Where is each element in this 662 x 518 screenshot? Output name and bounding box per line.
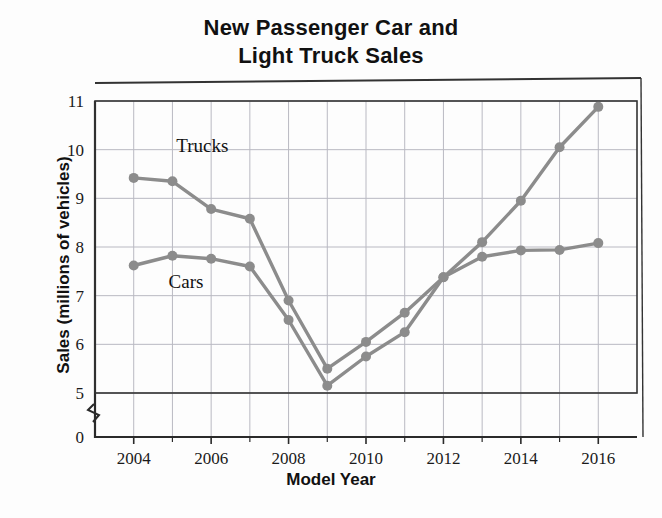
- outer-top-rule: [95, 78, 641, 83]
- data-point: [400, 308, 410, 318]
- data-point: [516, 245, 526, 255]
- data-point: [361, 352, 371, 362]
- y-axis-ticks: 5678910110: [67, 92, 85, 447]
- x-tick-label: 2004: [117, 449, 152, 468]
- data-point: [593, 102, 603, 112]
- data-point: [245, 261, 255, 271]
- y-tick-label: 8: [76, 238, 85, 257]
- y-tick-label: 7: [76, 287, 85, 306]
- series-annotations: TrucksCars: [169, 135, 229, 292]
- series-label-cars: Cars: [169, 271, 204, 292]
- data-point: [129, 260, 139, 270]
- data-point: [593, 238, 603, 248]
- line-chart-plot: 5678910110 2004200620082010201220142016 …: [0, 0, 662, 518]
- y-tick-label: 5: [76, 384, 85, 403]
- data-point: [206, 254, 216, 264]
- x-axis-ticks: 2004200620082010201220142016: [117, 437, 616, 468]
- data-point: [167, 176, 177, 186]
- data-point: [206, 204, 216, 214]
- data-point: [516, 196, 526, 206]
- data-point: [284, 296, 294, 306]
- data-point: [555, 142, 565, 152]
- outer-right-rule: [641, 78, 643, 437]
- y-tick-label: 9: [76, 189, 85, 208]
- x-tick-label: 2006: [194, 449, 228, 468]
- x-tick-label: 2016: [581, 449, 615, 468]
- data-point: [361, 337, 371, 347]
- y-tick-label-zero: 0: [76, 428, 85, 447]
- x-tick-label: 2014: [504, 449, 539, 468]
- y-tick-label: 10: [67, 141, 84, 160]
- chart-screenshot: New Passenger Car and Light Truck Sales …: [0, 0, 662, 518]
- data-point: [477, 252, 487, 262]
- x-tick-label: 2012: [426, 449, 460, 468]
- x-tick-label: 2010: [349, 449, 383, 468]
- data-point: [438, 272, 448, 282]
- data-point: [400, 327, 410, 337]
- y-tick-label: 11: [68, 92, 84, 111]
- x-tick-label: 2008: [272, 449, 306, 468]
- data-point: [245, 214, 255, 224]
- data-point: [284, 315, 294, 325]
- data-point: [322, 364, 332, 374]
- y-tick-label: 6: [76, 335, 85, 354]
- data-point: [129, 173, 139, 183]
- data-point: [555, 245, 565, 255]
- series-label-trucks: Trucks: [176, 135, 228, 156]
- data-point: [167, 251, 177, 261]
- data-point: [477, 237, 487, 247]
- axis-break-icon: [88, 404, 99, 422]
- data-point: [322, 381, 332, 391]
